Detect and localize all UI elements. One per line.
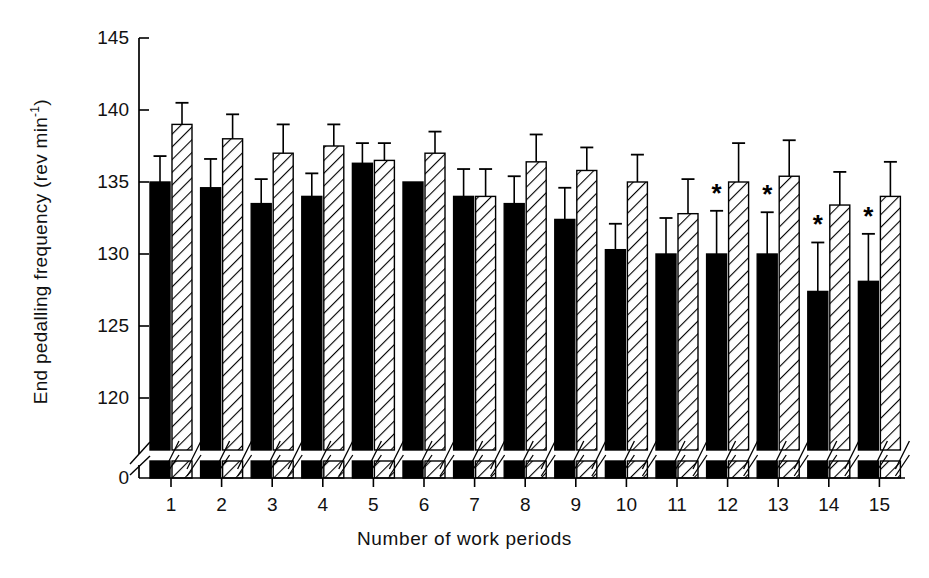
bar-black bbox=[555, 219, 575, 450]
bar-black bbox=[352, 163, 372, 450]
bar-hatched bbox=[374, 160, 394, 450]
bar-black bbox=[150, 182, 170, 450]
significance-asterisk: * bbox=[712, 178, 723, 208]
chart-figure: End pedalling frequency (rev min-1) Numb… bbox=[0, 0, 929, 578]
bar-hatched bbox=[627, 182, 647, 450]
bar-black bbox=[251, 204, 271, 450]
bar-hatched bbox=[779, 176, 799, 450]
bar-black bbox=[707, 254, 727, 450]
bar-hatched bbox=[273, 153, 293, 450]
bar-hatched bbox=[223, 139, 243, 450]
plot-area: **** bbox=[0, 0, 929, 578]
bar-hatched bbox=[577, 170, 597, 450]
bar-hatched bbox=[476, 196, 496, 450]
bar-black bbox=[403, 182, 423, 450]
bar-black bbox=[656, 254, 676, 450]
bar-hatched bbox=[324, 146, 344, 450]
bar-black bbox=[454, 196, 474, 450]
significance-asterisk: * bbox=[863, 201, 874, 231]
bar-black bbox=[757, 254, 777, 450]
bar-black bbox=[504, 204, 524, 450]
bar-hatched bbox=[172, 124, 192, 450]
bar-hatched bbox=[880, 196, 900, 450]
bar-black bbox=[808, 291, 828, 450]
bar-black bbox=[201, 188, 221, 450]
bar-hatched bbox=[729, 182, 749, 450]
bars-layer bbox=[150, 103, 900, 478]
significance-asterisk: * bbox=[762, 179, 773, 209]
bar-hatched bbox=[425, 153, 445, 450]
bar-black bbox=[858, 281, 878, 450]
bar-black bbox=[302, 196, 322, 450]
bar-hatched bbox=[678, 214, 698, 450]
axis-break-slash bbox=[130, 456, 150, 475]
bar-black bbox=[605, 250, 625, 450]
axis-break-slash bbox=[130, 442, 150, 464]
significance-asterisk: * bbox=[813, 209, 824, 239]
bar-hatched bbox=[526, 162, 546, 450]
bar-hatched bbox=[830, 205, 850, 450]
